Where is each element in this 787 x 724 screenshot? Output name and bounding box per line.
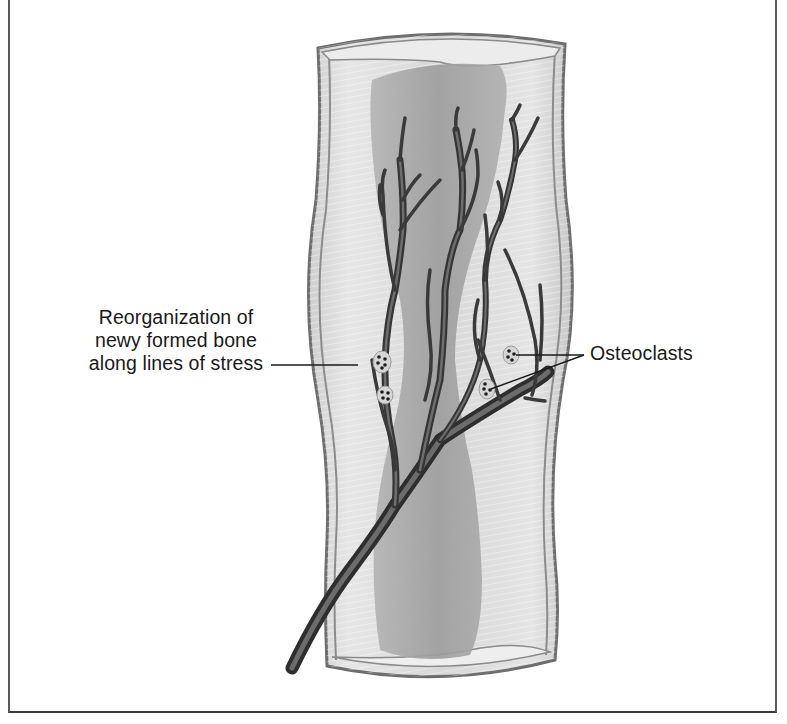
label-reorganization-line-1: Reorganization of — [76, 306, 276, 329]
label-osteoclasts-text: Osteoclasts — [590, 342, 693, 365]
label-reorganization: Reorganization of newy formed bone along… — [76, 306, 276, 375]
osteoclast-cell — [373, 351, 391, 373]
label-reorganization-line-2: newy formed bone — [76, 329, 276, 352]
label-reorganization-line-3: along lines of stress — [76, 352, 276, 375]
label-osteoclasts: Osteoclasts — [590, 342, 693, 365]
osteoclast-cell — [377, 386, 393, 404]
